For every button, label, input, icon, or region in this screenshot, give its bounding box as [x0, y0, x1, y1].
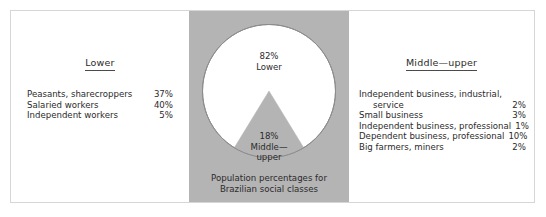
pie-label-lower-name: Lower: [189, 62, 349, 73]
middle-upper-panel-heading: Middle—upper: [349, 57, 534, 71]
row-label: Big farmers, miners: [359, 142, 444, 153]
row-label-continued-line: service 2%: [359, 100, 526, 111]
list-item: Independent workers 5%: [27, 110, 173, 121]
pie-label-mu-percent: 18%: [189, 131, 349, 142]
pie-label-mu-name-line1: Middle—: [189, 142, 349, 153]
row-value: 2%: [508, 142, 526, 153]
pie-chart: 82% Lower 18% Middle— upper Population p…: [189, 11, 349, 202]
row-value: 37%: [150, 89, 173, 100]
figure-root: Lower Peasants, sharecroppers 37% Salari…: [0, 0, 546, 217]
row-value: 2%: [508, 100, 526, 111]
row-label: Salaried workers: [27, 100, 99, 111]
list-item: Independent business, professional 1%: [359, 121, 526, 132]
row-value: 3%: [508, 110, 526, 121]
row-value: 10%: [504, 131, 527, 142]
row-label: Peasants, sharecroppers: [27, 89, 132, 100]
middle-upper-panel-heading-text: Middle—upper: [406, 57, 477, 71]
row-label: Independent business, industrial,: [359, 89, 526, 100]
pie-label-lower-percent: 82%: [189, 51, 349, 62]
figure-frame: Lower Peasants, sharecroppers 37% Salari…: [10, 10, 535, 203]
chart-caption-line1: Population percentages for: [189, 173, 349, 184]
pie-label-middle-upper: 18% Middle— upper: [189, 131, 349, 163]
lower-panel-rows: Peasants, sharecroppers 37% Salaried wor…: [27, 89, 173, 121]
list-item: Big farmers, miners 2%: [359, 142, 526, 153]
row-label: Dependent business, professional: [359, 131, 504, 142]
row-label: Independent business, professional: [359, 121, 511, 132]
list-item: Independent business, industrial, servic…: [359, 89, 526, 110]
middle-upper-panel-rows: Independent business, industrial, servic…: [359, 89, 526, 152]
pie-label-lower: 82% Lower: [189, 51, 349, 72]
lower-panel-heading-text: Lower: [85, 57, 114, 71]
chart-caption-line2: Brazilian social classes: [189, 184, 349, 195]
row-value: 5%: [155, 110, 173, 121]
pie-label-mu-name-line2: upper: [189, 152, 349, 163]
row-value: 40%: [150, 100, 173, 111]
row-label-continued: service: [373, 100, 404, 111]
list-item: Salaried workers 40%: [27, 100, 173, 111]
lower-panel-heading: Lower: [11, 57, 189, 71]
middle-upper-class-panel: Middle—upper Independent business, indus…: [349, 11, 534, 202]
list-item: Peasants, sharecroppers 37%: [27, 89, 173, 100]
chart-caption: Population percentages for Brazilian soc…: [189, 173, 349, 194]
list-item: Dependent business, professional 10%: [359, 131, 526, 142]
lower-class-panel: Lower Peasants, sharecroppers 37% Salari…: [11, 11, 189, 202]
row-label: Small business: [359, 110, 423, 121]
row-label: Independent workers: [27, 110, 118, 121]
row-value: 1%: [511, 121, 529, 132]
list-item: Small business 3%: [359, 110, 526, 121]
